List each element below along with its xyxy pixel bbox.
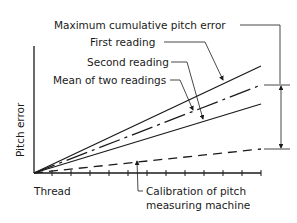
first-reading-leader xyxy=(164,42,223,80)
mean-reading-line xyxy=(34,85,261,173)
calibration-label-line2: measuring machine xyxy=(146,199,250,211)
calibration-leader xyxy=(137,161,143,191)
mean-leader xyxy=(170,80,193,110)
calibration-line xyxy=(34,149,261,173)
x-axis-label: Thread xyxy=(34,185,71,197)
second-reading-line xyxy=(34,104,261,173)
calibration-label-line1: Calibration of pitch xyxy=(146,185,246,197)
mean-reading-label: Mean of two readings xyxy=(53,74,166,86)
second-reading-leader xyxy=(171,62,203,119)
second-reading-label: Second reading xyxy=(87,56,169,68)
pitch-error-diagram: Maximum cumulative pitch error First rea… xyxy=(0,0,297,223)
y-axis-label: Pitch error xyxy=(14,103,26,157)
max-error-label: Maximum cumulative pitch error xyxy=(54,19,226,31)
first-reading-label: First reading xyxy=(90,36,155,48)
